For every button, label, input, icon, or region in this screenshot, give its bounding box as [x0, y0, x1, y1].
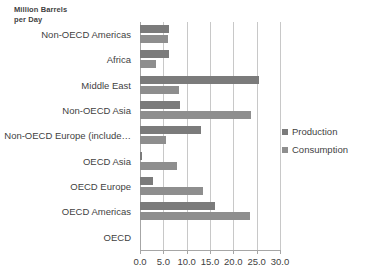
- bar-consumption: [140, 111, 251, 119]
- bar-production: [140, 202, 215, 210]
- legend-label: Production: [292, 126, 337, 137]
- bar-chart: Million Barrels per Day Non-OECD America…: [0, 0, 367, 279]
- bar-production: [140, 25, 169, 33]
- bar-consumption: [140, 136, 166, 144]
- legend-swatch-icon: [282, 147, 288, 153]
- bar-row: [140, 22, 280, 47]
- x-tick-mark: [187, 250, 188, 254]
- category-label: Non-OECD Americas: [0, 22, 136, 47]
- bar-production: [140, 152, 142, 160]
- bar-production: [140, 177, 153, 185]
- bar-production: [140, 50, 169, 58]
- legend-label: Consumption: [292, 144, 348, 155]
- x-tick-mark: [257, 250, 258, 254]
- bar-row: [140, 149, 280, 174]
- bar-row: [140, 98, 280, 123]
- bar-row: [140, 174, 280, 199]
- bar-row: [140, 123, 280, 148]
- x-tick-label: 5.0: [157, 256, 170, 267]
- x-tick-label: 25.0: [247, 256, 266, 267]
- x-tick-label: 15.0: [201, 256, 220, 267]
- bar-row: [140, 47, 280, 72]
- category-label: OECD Europe: [0, 174, 136, 199]
- x-tick-mark: [163, 250, 164, 254]
- x-tick-mark: [140, 250, 141, 254]
- bar-production: [140, 126, 201, 134]
- x-tick-label: 30.0: [271, 256, 290, 267]
- category-label: Non-OECD Europe (include…: [0, 123, 136, 148]
- x-tick-mark: [210, 250, 211, 254]
- bar-rows: [140, 22, 280, 250]
- bar-consumption: [140, 212, 250, 220]
- x-tick-label: 10.0: [177, 256, 196, 267]
- bar-production: [140, 101, 180, 109]
- bar-row: [140, 73, 280, 98]
- category-label: OECD: [0, 225, 136, 250]
- x-tick-mark: [233, 250, 234, 254]
- x-tick-label: 20.0: [224, 256, 243, 267]
- category-label: Africa: [0, 47, 136, 72]
- bar-production: [140, 76, 259, 84]
- bar-consumption: [140, 86, 179, 94]
- legend-item[interactable]: Production: [282, 126, 366, 137]
- bar-row: [140, 199, 280, 224]
- plot-area: [140, 22, 280, 250]
- gridline: [280, 22, 281, 250]
- category-label: Middle East: [0, 73, 136, 98]
- category-label: Non-OECD Asia: [0, 98, 136, 123]
- bar-consumption: [140, 187, 203, 195]
- bar-consumption: [140, 162, 177, 170]
- bar-consumption: [140, 35, 168, 43]
- bar-row: [140, 225, 280, 250]
- x-tick-label: 0.0: [133, 256, 146, 267]
- category-axis-labels: Non-OECD AmericasAfricaMiddle EastNon-OE…: [0, 22, 136, 250]
- x-tick-mark: [280, 250, 281, 254]
- category-label: OECD Americas: [0, 199, 136, 224]
- bar-consumption: [140, 60, 156, 68]
- legend-item[interactable]: Consumption: [282, 144, 366, 155]
- chart-legend: ProductionConsumption: [282, 126, 366, 162]
- category-label: OECD Asia: [0, 149, 136, 174]
- legend-swatch-icon: [282, 129, 288, 135]
